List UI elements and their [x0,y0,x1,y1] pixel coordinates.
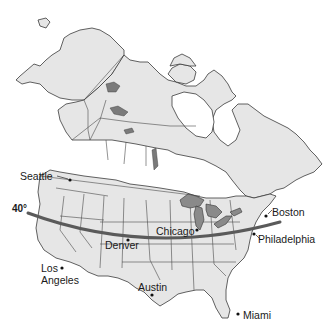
city-label-seattle: Seattle [20,171,53,182]
city-label-austin: Austin [138,282,167,293]
arctic-island [170,54,196,66]
city-label-boston: Boston [272,207,305,218]
city-dot-miami [236,312,239,315]
city-label-los-angeles-line2: Angeles [41,275,79,286]
alaska-island [38,18,50,28]
city-label-chicago: Chicago [156,226,195,237]
city-dot-austin [150,293,153,296]
city-dot-seattle [68,178,71,181]
city-label-miami: Miami [243,310,271,321]
city-label-los-angeles-line1: Los [41,263,58,274]
city-dot-los-angeles [60,266,63,269]
city-dot-chicago [195,228,198,231]
city-dot-philadelphia [252,232,255,235]
city-dot-boston [264,214,267,217]
latitude-label: 40° [12,203,27,214]
city-label-philadelphia: Philadelphia [258,234,315,245]
city-label-denver: Denver [105,240,139,251]
lake-winnipeg [152,148,158,170]
